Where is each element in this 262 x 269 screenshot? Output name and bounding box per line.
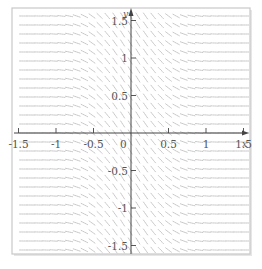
y-tick-label: 1.5 [111,15,128,27]
x-tick-label: -1.5 [8,138,28,150]
x-tick-label: 1.5 [235,138,252,150]
y-tick-label: -0.5 [108,165,128,177]
y-tick-label: 1 [121,52,128,64]
y-tick-label: 0.5 [111,90,128,102]
origin-label: 0 [120,138,127,150]
x-tick-label: -0.5 [83,138,103,150]
y-tick-label: -1.5 [108,240,128,252]
x-tick-label: 0.5 [160,138,177,150]
y-tick-label: -1 [118,202,128,214]
slope-field-chart: x y 0 -1.5-1-0.50.511.5 1.510.5-0.5-1-1.… [0,0,262,269]
x-tick-label: -1 [51,138,61,150]
x-tick-label: 1 [203,138,210,150]
